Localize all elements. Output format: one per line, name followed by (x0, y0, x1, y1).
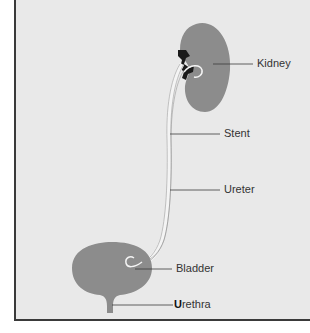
kidney-label: Kidney (257, 58, 291, 69)
urethra-label-first: U (174, 298, 182, 310)
bladder-label: Bladder (176, 263, 214, 274)
ureter-label: Ureter (224, 184, 255, 195)
bladder-shape (72, 242, 152, 313)
urinary-tract-illustration (0, 0, 310, 333)
ureter-path (140, 64, 182, 264)
stent-label: Stent (224, 128, 250, 139)
urethra-label-rest: rethra (182, 298, 211, 310)
urethra-label: Urethra (174, 299, 211, 310)
